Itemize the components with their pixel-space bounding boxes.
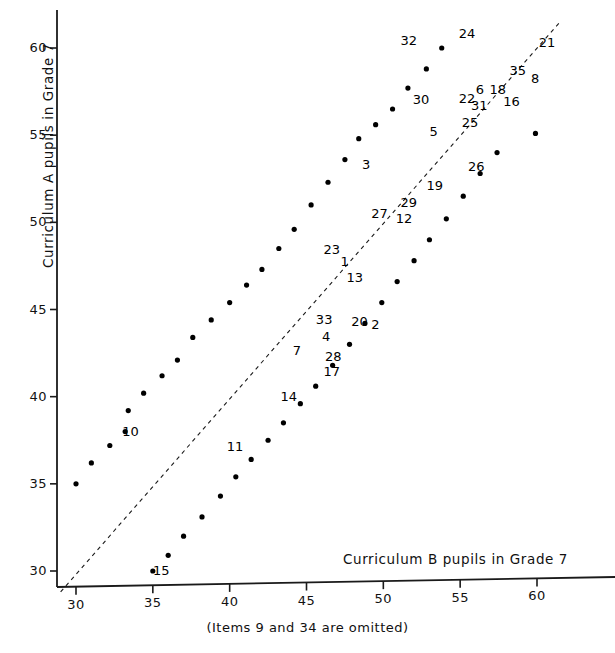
data-point	[395, 279, 400, 284]
data-point	[175, 357, 180, 362]
data-point	[298, 401, 303, 406]
y-tick-label: 55	[7, 127, 47, 142]
y-tick-label: 35	[7, 476, 47, 491]
x-tick-label: 50	[367, 591, 399, 606]
point-label: 35	[509, 64, 526, 77]
point-label: 16	[503, 95, 520, 108]
x-tick-label: 35	[137, 595, 169, 610]
data-point	[292, 227, 297, 232]
point-label: 15	[153, 564, 170, 577]
point-label: 24	[459, 27, 476, 40]
point-label: 1	[340, 255, 348, 268]
data-point	[444, 216, 449, 221]
point-label: 5	[430, 125, 438, 138]
data-point	[281, 420, 286, 425]
data-point	[533, 131, 538, 136]
y-tick-label: 45	[7, 302, 47, 317]
x-tick-label: 55	[444, 590, 476, 605]
data-point	[309, 202, 314, 207]
y-tick-label: 30	[7, 563, 47, 578]
point-label: 26	[468, 160, 485, 173]
point-label: 4	[322, 330, 330, 343]
figure-caption: (Items 9 and 34 are omitted)	[0, 620, 615, 635]
point-label: 29	[400, 196, 417, 209]
data-point	[439, 45, 444, 50]
data-point	[233, 474, 238, 479]
data-point	[159, 373, 164, 378]
point-label: 8	[531, 72, 539, 85]
point-label: 32	[400, 34, 417, 47]
point-label: 17	[324, 365, 341, 378]
data-point	[107, 443, 112, 448]
point-label: 27	[371, 207, 388, 220]
data-point	[373, 122, 378, 127]
data-point	[379, 300, 384, 305]
y-tick-label: 60	[7, 40, 47, 55]
point-label: 33	[316, 313, 333, 326]
data-point	[126, 408, 131, 413]
data-point	[424, 66, 429, 71]
point-label: 2	[371, 318, 379, 331]
data-point	[494, 150, 499, 155]
point-label: 13	[347, 271, 364, 284]
point-label: 12	[396, 212, 413, 225]
data-point	[73, 481, 78, 486]
data-point	[249, 457, 254, 462]
data-point	[342, 157, 347, 162]
point-label: 14	[281, 390, 298, 403]
point-label: 31	[471, 99, 488, 112]
data-point	[276, 246, 281, 251]
point-label: 23	[324, 243, 341, 256]
y-tick-label: 40	[7, 389, 47, 404]
point-label: 6	[476, 83, 484, 96]
data-point	[209, 317, 214, 322]
point-label: 25	[462, 116, 479, 129]
x-axis-title: Curriculum B pupils in Grade 7	[343, 551, 568, 567]
data-point	[244, 282, 249, 287]
data-point	[356, 136, 361, 141]
x-tick-label: 45	[291, 593, 323, 608]
data-point	[411, 258, 416, 263]
point-label: 19	[427, 179, 444, 192]
data-point	[89, 460, 94, 465]
y-axis-title: Curriculum A pupils in Grade 7	[40, 48, 56, 268]
point-label: 3	[362, 158, 370, 171]
data-point	[313, 384, 318, 389]
data-point	[405, 85, 410, 90]
y-tick-label: 50	[7, 214, 47, 229]
x-tick-label: 40	[214, 594, 246, 609]
data-point	[390, 106, 395, 111]
point-label: 28	[325, 350, 342, 363]
point-label: 20	[351, 315, 368, 328]
data-point	[227, 300, 232, 305]
point-label: 11	[227, 440, 244, 453]
x-tick-label: 30	[60, 597, 92, 612]
data-point	[461, 194, 466, 199]
data-point	[166, 553, 171, 558]
point-label: 30	[413, 93, 430, 106]
data-point	[141, 391, 146, 396]
data-point	[190, 335, 195, 340]
x-tick-label: 60	[521, 588, 553, 603]
data-point	[259, 267, 264, 272]
point-label: 7	[293, 344, 301, 357]
point-label: 21	[539, 36, 556, 49]
scatter-plot-figure: Curriculum A pupils in Grade 7 Curriculu…	[0, 0, 615, 653]
data-point	[347, 342, 352, 347]
data-point	[181, 534, 186, 539]
data-point	[218, 493, 223, 498]
data-point	[427, 237, 432, 242]
point-label: 10	[122, 425, 139, 438]
data-point	[199, 514, 204, 519]
data-point	[325, 180, 330, 185]
data-point	[265, 438, 270, 443]
